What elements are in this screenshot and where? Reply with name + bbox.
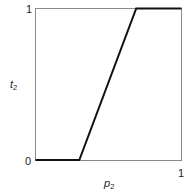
chart: 1 0 1 t2 p2 (0, 0, 195, 196)
y-axis-label-sub: 2 (13, 83, 17, 92)
x-axis-label: p2 (103, 177, 114, 191)
y-tick-0: 0 (25, 155, 31, 167)
x-axis-label-sub: 2 (110, 182, 114, 191)
x-axis-label-main: p (103, 177, 110, 189)
data-line (36, 9, 182, 161)
y-axis-label: t2 (10, 78, 17, 92)
x-tick-1: 1 (178, 167, 184, 179)
y-tick-1: 1 (26, 3, 32, 15)
